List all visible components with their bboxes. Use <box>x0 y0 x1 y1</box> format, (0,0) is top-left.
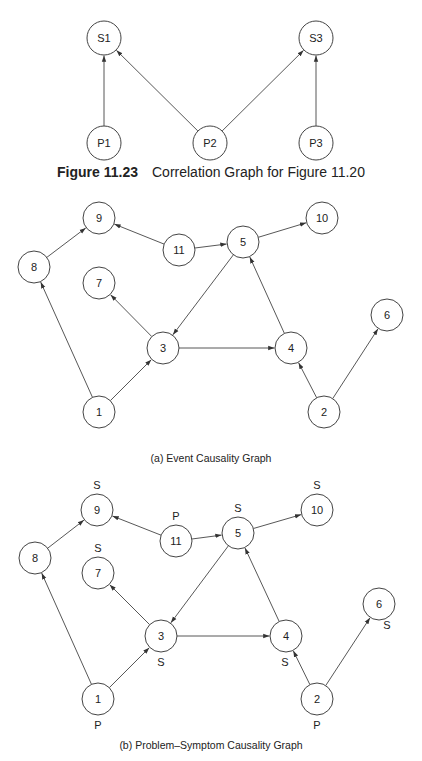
node-label: 6 <box>384 309 390 321</box>
edge-2-to-6 <box>326 618 370 686</box>
edge-3-to-7 <box>110 585 150 625</box>
edge-4-to-5 <box>250 257 285 333</box>
node-S1: S1 <box>87 21 121 55</box>
node-label: 4 <box>283 630 289 642</box>
node-1: 1 <box>83 396 115 428</box>
node-label: S1 <box>97 32 110 44</box>
node-type-tag: S <box>234 502 241 514</box>
node-6: 6S <box>363 588 395 631</box>
node-label: 4 <box>288 342 294 354</box>
node-11: 11P <box>160 510 192 557</box>
node-label: 10 <box>316 212 328 224</box>
node-label: 2 <box>314 693 320 705</box>
node-label: 11 <box>173 244 184 256</box>
edge-1-to-3 <box>110 360 151 401</box>
node-label: 9 <box>96 212 102 224</box>
node-type-tag: P <box>313 719 320 731</box>
edge-1-to-3 <box>109 648 149 688</box>
node-type-tag: S <box>281 656 288 668</box>
node-label: 10 <box>311 504 323 516</box>
node-4: 4S <box>270 620 302 668</box>
edge-1-to-8 <box>42 573 92 684</box>
node-2: 2 <box>308 396 340 428</box>
node-6: 6 <box>371 299 403 331</box>
node-1: 1P <box>82 683 114 731</box>
node-11: 11 <box>163 234 195 266</box>
edge-5-to-10 <box>253 515 301 529</box>
edge-11-to-5 <box>195 244 227 248</box>
node-P1: P1 <box>87 126 121 160</box>
node-type-tag: S <box>93 479 100 491</box>
node-9: 9S <box>81 479 113 526</box>
node-label: 9 <box>94 504 100 516</box>
node-label: 3 <box>160 342 166 354</box>
edge-1-to-8 <box>41 282 93 397</box>
diagram-canvas: S1S3P1P2P3 1234567891011 1P2P3S4S5S6S7S8… <box>0 0 422 761</box>
node-type-tag: S <box>94 542 101 554</box>
node-label: P1 <box>97 137 110 149</box>
edge-8-to-9 <box>47 228 86 258</box>
edge-5-to-10 <box>258 223 306 238</box>
node-type-tag: P <box>172 510 179 522</box>
node-8: 8 <box>19 542 51 574</box>
node-label: 5 <box>240 236 246 248</box>
node-label: 8 <box>31 261 37 273</box>
edge-3-to-7 <box>111 295 152 337</box>
node-label: 7 <box>95 567 101 579</box>
node-2: 2P <box>301 683 333 731</box>
node-3: 3S <box>145 620 177 668</box>
edge-P2-to-S3 <box>222 50 304 131</box>
edge-8-to-9 <box>48 520 84 548</box>
node-label: S3 <box>309 32 322 44</box>
edge-11-to-9 <box>114 224 164 244</box>
edge-P2-to-S1 <box>116 50 197 131</box>
node-8: 8 <box>18 251 50 283</box>
node-P3: P3 <box>299 126 333 160</box>
node-label: 6 <box>376 598 382 610</box>
node-label: 5 <box>235 527 241 539</box>
graph-a-caption: (a) Event Causality Graph <box>0 452 422 464</box>
node-type-tag: S <box>383 619 390 631</box>
figure-number: Figure 11.23 <box>57 164 138 180</box>
node-type-tag: S <box>157 656 164 668</box>
correlation-graph: S1S3P1P2P3 <box>87 21 333 160</box>
node-label: 1 <box>95 693 101 705</box>
node-7: 7S <box>82 542 114 589</box>
node-label: 3 <box>158 630 164 642</box>
figure-title: Correlation Graph for Figure 11.20 <box>152 164 365 180</box>
node-10: 10 <box>306 202 338 234</box>
node-label: 8 <box>32 552 38 564</box>
edge-5-to-3 <box>171 546 229 623</box>
node-9: 9 <box>83 202 115 234</box>
node-label: P2 <box>203 137 216 149</box>
graph-b-caption: (b) Problem–Symptom Causality Graph <box>0 739 422 751</box>
node-label: 1 <box>96 406 102 418</box>
edge-2-to-4 <box>299 363 317 398</box>
node-label: P3 <box>309 137 322 149</box>
node-4: 4 <box>275 332 307 364</box>
node-5: 5 <box>227 226 259 258</box>
node-S3: S3 <box>299 21 333 55</box>
edge-11-to-5 <box>192 535 222 539</box>
node-7: 7 <box>83 267 115 299</box>
event-causality-graph: 1234567891011 <box>18 202 403 428</box>
node-type-tag: P <box>94 719 101 731</box>
edge-11-to-9 <box>112 516 161 535</box>
edge-2-to-4 <box>293 651 310 685</box>
node-label: 7 <box>96 277 102 289</box>
node-10: 10S <box>301 479 333 526</box>
edge-5-to-3 <box>173 255 234 335</box>
node-3: 3 <box>147 332 179 364</box>
edge-4-to-5 <box>245 548 279 622</box>
node-label: 11 <box>170 535 181 547</box>
node-5: 5S <box>222 502 254 549</box>
node-label: 2 <box>321 406 327 418</box>
node-P2: P2 <box>193 126 227 160</box>
figure-caption: Figure 11.23Correlation Graph for Figure… <box>0 164 422 180</box>
edge-2-to-6 <box>333 329 378 399</box>
problem-symptom-causality-graph: 1P2P3S4S5S6S7S89S10S11P <box>19 479 395 731</box>
node-type-tag: S <box>313 479 320 491</box>
